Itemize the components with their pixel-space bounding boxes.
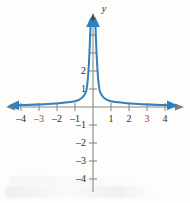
x-axis-tick-labels: –4 –3 –2 –1 1 2 3 4 bbox=[15, 113, 168, 124]
curve-left-branch bbox=[14, 24, 91, 105]
graph-figure: –4 –3 –2 –1 1 2 3 4 2 1 –1 –2 –3 –4 y bbox=[0, 0, 190, 203]
y-label--1: –1 bbox=[75, 119, 86, 130]
y-axis-tick-labels: 2 1 –1 –2 –3 –4 bbox=[75, 65, 86, 184]
y-label--3: –3 bbox=[75, 155, 86, 166]
y-label-1: 1 bbox=[81, 83, 86, 94]
x-label-2: 2 bbox=[127, 113, 132, 124]
y-label--4: –4 bbox=[75, 173, 86, 184]
x-label-1: 1 bbox=[109, 113, 114, 124]
x-label--4: –4 bbox=[15, 113, 26, 124]
x-label--3: –3 bbox=[33, 113, 44, 124]
curve-right-branch bbox=[95, 24, 172, 105]
x-label--2: –2 bbox=[51, 113, 62, 124]
x-label-3: 3 bbox=[145, 113, 150, 124]
x-axis-right-arrow-icon bbox=[175, 103, 184, 110]
y-label-2: 2 bbox=[81, 65, 86, 76]
x-label-4: 4 bbox=[163, 113, 168, 124]
y-axis-label: y bbox=[101, 3, 107, 14]
coordinate-plane: –4 –3 –2 –1 1 2 3 4 2 1 –1 –2 –3 –4 y bbox=[0, 0, 190, 203]
y-label--2: –2 bbox=[75, 137, 86, 148]
